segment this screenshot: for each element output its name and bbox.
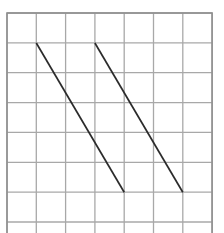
grid-cell	[7, 13, 36, 43]
grid-cell	[7, 73, 36, 103]
grid-cell	[154, 73, 183, 103]
grid-cell	[7, 162, 36, 192]
grid-cell	[7, 132, 36, 162]
grid-cell	[154, 222, 183, 233]
grid-cell	[95, 222, 124, 233]
grid-cell	[124, 162, 153, 192]
grid-cell	[66, 132, 95, 162]
grid-cell	[183, 222, 212, 233]
grid-cell	[183, 13, 212, 43]
grid-cell	[95, 192, 124, 222]
grid-cell	[95, 132, 124, 162]
grid-cell	[66, 162, 95, 192]
grid-cell	[66, 222, 95, 233]
grid-cell	[154, 192, 183, 222]
grid-cell	[183, 43, 212, 73]
grid-cell	[36, 222, 65, 233]
grid-cell	[7, 43, 36, 73]
grid-cell	[124, 43, 153, 73]
grid-cell	[183, 132, 212, 162]
grid-cell	[36, 73, 65, 103]
grid-cell	[154, 103, 183, 133]
grid-cell	[124, 222, 153, 233]
grid-cell	[7, 192, 36, 222]
grid-cell	[183, 162, 212, 192]
grid-cell	[95, 13, 124, 43]
grid-cell	[183, 103, 212, 133]
grid-cell	[124, 132, 153, 162]
grid-cell	[154, 43, 183, 73]
grid-cell	[124, 13, 153, 43]
grid-cell	[183, 192, 212, 222]
grid-cell	[66, 192, 95, 222]
grid-cell	[154, 13, 183, 43]
grid-cell	[183, 73, 212, 103]
grid-cell	[66, 13, 95, 43]
grid-cell	[36, 162, 65, 192]
grid-cell	[7, 222, 36, 233]
grid-cell	[154, 132, 183, 162]
figure-root	[0, 0, 224, 233]
grid-cell	[66, 73, 95, 103]
grid-cell	[124, 192, 153, 222]
grid-cell	[66, 43, 95, 73]
grid-cell	[36, 192, 65, 222]
grid-diagram	[0, 0, 224, 233]
grid-cell	[36, 13, 65, 43]
grid-cell	[124, 73, 153, 103]
grid-cell	[95, 103, 124, 133]
grid-cell	[36, 103, 65, 133]
grid-cell	[7, 103, 36, 133]
grid-cell	[95, 73, 124, 103]
grid-cell	[36, 132, 65, 162]
